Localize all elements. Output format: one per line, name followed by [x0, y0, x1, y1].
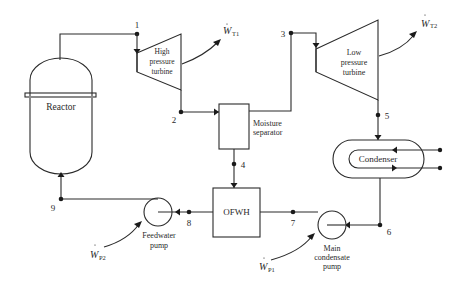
state-point-6: [378, 223, 383, 228]
state-label-5: 5: [385, 111, 390, 121]
wt2-dot: [424, 14, 425, 15]
arrow-icon: [392, 165, 397, 172]
arrow-icon: [307, 233, 315, 240]
state-point-9: [59, 197, 64, 202]
wp1-dot: [263, 257, 264, 258]
wt1-sub: T1: [232, 30, 239, 37]
state-label-8: 8: [187, 218, 192, 228]
hp-turbine-label-3: turbine: [151, 67, 173, 76]
work-arrow-wt1: [182, 42, 218, 64]
work-label-wt1: W T1: [223, 23, 239, 37]
lp-turbine-label-1: Low: [347, 48, 362, 57]
wp1-sub: P1: [268, 266, 275, 273]
hp-turbine-label-2: pressure: [150, 57, 176, 66]
state-label-3: 3: [281, 29, 286, 39]
wt2-sub: T2: [430, 22, 437, 29]
arrow-icon: [409, 31, 417, 38]
work-label-wp2: W P2: [90, 244, 106, 261]
condenser: Condenser: [333, 140, 442, 178]
state-label-4: 4: [241, 160, 246, 170]
main-pump-label-1: Main: [324, 244, 341, 253]
reactor-flange: [25, 93, 96, 97]
main-condensate-pump: Main condensate pump: [314, 211, 350, 271]
pipe-fwpump-to-reactor: [61, 174, 158, 199]
arrow-icon: [375, 135, 382, 140]
fw-pump-label-2: pump: [150, 241, 168, 250]
state-label-9: 9: [51, 203, 56, 213]
state-point-5: [376, 113, 381, 118]
pipe-reactor-to-1: [60, 34, 137, 60]
arrow-icon: [392, 147, 397, 154]
main-pump-label-2: condensate: [314, 253, 350, 262]
reactor: Reactor: [25, 58, 96, 174]
work-arrow-wp2: [104, 224, 139, 247]
pipe-hpt-to-ms: [181, 90, 219, 112]
arrow-icon: [214, 109, 219, 116]
arrow-icon: [58, 172, 65, 177]
reactor-dome: [30, 58, 92, 96]
arrow-icon: [134, 221, 142, 228]
wp2-dot: [94, 244, 95, 245]
state-point-8: [187, 210, 192, 215]
work-label-wt2: W T2: [421, 14, 437, 29]
fw-pump-label-1: Feedwater: [142, 231, 176, 240]
state-point-2: [179, 110, 184, 115]
arrow-icon: [175, 209, 180, 216]
cooling-water-in: [438, 166, 442, 170]
ms-label-1: Moisture: [253, 119, 282, 128]
cycle-diagram: Reactor 1 High pressure turbine W T1 2 M…: [0, 0, 464, 287]
state-point-3: [289, 31, 294, 36]
ms-label-2: separator: [253, 128, 283, 137]
arrow-icon: [231, 183, 238, 188]
wp2-sub: P2: [99, 254, 106, 261]
state-label-6: 6: [387, 227, 392, 237]
moisture-separator-box: [219, 104, 249, 149]
state-label-1: 1: [135, 20, 140, 30]
state-label-2: 2: [172, 115, 177, 125]
work-arrow-wp1: [271, 236, 312, 260]
wt1-dot: [226, 23, 227, 24]
condenser-label: Condenser: [359, 154, 398, 164]
work-arrow-wt2: [379, 35, 414, 56]
pipe-condenser-to-pump: [346, 178, 380, 225]
feedwater-pump: Feedwater pump: [142, 198, 176, 250]
pipe-ms-to-lpt: [249, 33, 316, 111]
reactor-label: Reactor: [46, 102, 76, 112]
state-label-7: 7: [291, 218, 296, 228]
state-point-7: [291, 210, 296, 215]
main-pump-label-3: pump: [323, 262, 341, 271]
lp-turbine: Low pressure turbine: [316, 20, 378, 100]
hp-turbine: High pressure turbine: [137, 34, 181, 90]
hp-turbine-label-1: High: [155, 47, 170, 56]
lp-turbine-label-2: pressure: [341, 58, 368, 67]
cooling-water-out: [438, 148, 442, 152]
lp-turbine-label-3: turbine: [343, 68, 366, 77]
ofwh: OFWH: [213, 188, 260, 237]
state-point-4: [232, 162, 237, 167]
ofwh-label: OFWH: [223, 207, 250, 217]
